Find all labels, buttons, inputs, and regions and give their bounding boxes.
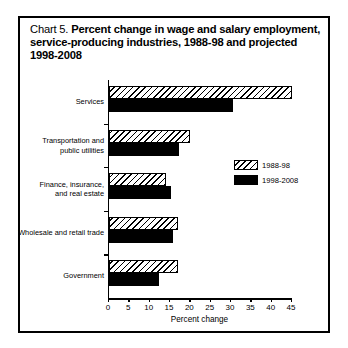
x-axis-tick-label: 20: [185, 303, 194, 312]
x-axis-tick-label: 45: [287, 303, 296, 312]
chart-title: Chart 5. Percent change in wage and sala…: [30, 23, 322, 63]
category-axis-tick: [104, 211, 109, 212]
bar-1998-2008-wholesale-and-retail-trade: [109, 230, 173, 243]
x-axis-tick: [189, 298, 190, 302]
x-axis-tick: [169, 298, 170, 302]
bar-1988-98-services: [109, 86, 292, 99]
x-axis-tick-label: 30: [226, 303, 235, 312]
x-axis-tick-label: 10: [144, 303, 153, 312]
x-axis-tick-label: 35: [246, 303, 255, 312]
x-axis-tick-label: 25: [205, 303, 214, 312]
category-label: Government: [0, 272, 104, 281]
chart-title-text: Percent change in wage and salary employ…: [30, 23, 320, 61]
x-axis-tick: [291, 298, 292, 302]
bar-1988-98-wholesale-and-retail-trade: [109, 217, 178, 230]
x-axis-tick: [271, 298, 272, 302]
bar-1988-98-government: [109, 260, 178, 273]
plot-area: ServicesTransportation and public utilit…: [108, 80, 292, 298]
x-axis-tick: [128, 298, 129, 302]
bar-1998-2008-services: [109, 99, 233, 112]
bar-1998-2008-transportation-and-public-utilities: [109, 143, 179, 156]
x-axis-tick: [149, 298, 150, 302]
legend-label-1988-98: 1988-98: [262, 161, 290, 170]
x-axis-title: Percent change: [108, 315, 291, 324]
x-axis-tick: [230, 298, 231, 302]
x-axis-tick-label: 5: [126, 303, 130, 312]
legend-label-1998-2008: 1998-2008: [262, 176, 298, 185]
legend-item-1998-2008: 1998-2008: [234, 174, 298, 186]
chart-figure: Chart 5. Percent change in wage and sala…: [18, 16, 330, 333]
category-label: Wholesale and retail trade: [0, 228, 104, 237]
chart-band: Government: [109, 254, 292, 298]
category-label: Finance, insurance, and real estate: [0, 180, 104, 198]
category-label: Services: [0, 97, 104, 106]
x-axis-tick: [210, 298, 211, 302]
x-axis-tick-label: 15: [165, 303, 174, 312]
category-label: Transportation and public utilities: [0, 136, 104, 154]
legend-swatch-solid-icon: [234, 175, 258, 185]
chart-band: Wholesale and retail trade: [109, 211, 292, 255]
chart-band: Services: [109, 80, 292, 124]
chart-title-number: Chart 5.: [30, 23, 68, 35]
bar-1998-2008-government: [109, 273, 159, 286]
x-axis-tick: [108, 298, 109, 302]
legend-swatch-hatched-icon: [234, 160, 258, 170]
category-axis-tick: [104, 167, 109, 168]
x-axis-tick-label: 40: [266, 303, 275, 312]
x-axis-tick-label: 0: [106, 303, 110, 312]
bar-1988-98-transportation-and-public-utilities: [109, 130, 190, 143]
bar-1988-98-finance-insurance-and-real-estate: [109, 173, 166, 186]
bar-1998-2008-finance-insurance-and-real-estate: [109, 186, 171, 199]
chart-legend: 1988-98 1998-2008: [234, 159, 298, 189]
category-axis-tick: [104, 254, 109, 255]
legend-item-1988-98: 1988-98: [234, 159, 298, 171]
x-axis-tick: [250, 298, 251, 302]
category-axis-tick: [104, 124, 109, 125]
x-axis-line: 051015202530354045: [108, 298, 291, 300]
